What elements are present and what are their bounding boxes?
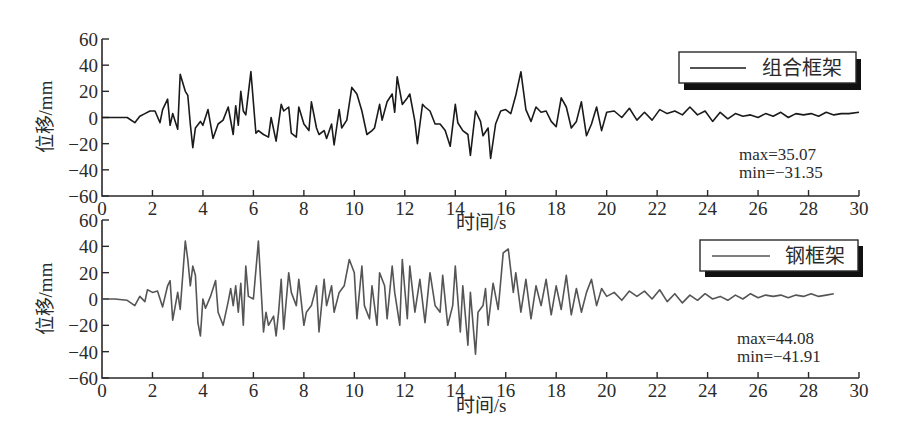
x-tick-label: 18	[547, 380, 566, 401]
x-tick-label: 6	[249, 198, 259, 219]
y-tick-label: 60	[79, 210, 98, 231]
legend: 组合框架	[679, 52, 861, 90]
y-tick-label: 20	[79, 263, 98, 284]
x-tick-label: 4	[198, 198, 208, 219]
min-annotation: min=−41.91	[737, 347, 821, 366]
x-axis-label: 时间/s	[456, 212, 507, 233]
x-tick-label: 0	[97, 380, 107, 401]
x-tick-label: 2	[148, 198, 158, 219]
legend-label: 钢框架	[785, 245, 845, 267]
legend-label: 组合框架	[762, 57, 842, 79]
y-axis-title: 位移/mm	[35, 80, 56, 153]
y-axis-label: 位移/mm	[35, 262, 56, 335]
x-tick-label: 20	[597, 380, 616, 401]
y-tick-label: −40	[68, 342, 98, 363]
x-axis-label: 时间/s	[456, 395, 507, 416]
displacement-time-history-charts: 位移/mm −60−40−200204060 02468101214161820…	[0, 0, 897, 444]
x-tick-label: 18	[547, 198, 566, 219]
legend: 钢框架	[700, 240, 863, 277]
x-tick-label: 12	[395, 380, 414, 401]
y-tick-label: −40	[68, 160, 98, 181]
y-axis-label: 位移/mm	[35, 80, 56, 153]
x-tick-label: 22	[648, 380, 667, 401]
x-tick-label: 24	[698, 198, 718, 219]
x-tick-label: 20	[597, 198, 616, 219]
figure: 位移/mm −60−40−200204060 02468101214161820…	[0, 0, 897, 444]
min-annotation: min=−31.35	[739, 163, 823, 182]
x-tick-label: 4	[198, 380, 208, 401]
y-tick-label: −60	[68, 368, 98, 389]
max-annotation: max=44.08	[737, 329, 814, 348]
y-tick-label: −20	[68, 134, 98, 155]
y-tick-label: −60	[68, 186, 98, 207]
x-tick-label: 28	[799, 380, 818, 401]
y-tick-label: 40	[79, 55, 98, 76]
x-tick-label: 24	[698, 380, 718, 401]
x-tick-label: 26	[749, 380, 768, 401]
x-tick-label: 22	[648, 198, 667, 219]
y-tick-label: −20	[68, 315, 98, 336]
x-tick-label: 28	[799, 198, 818, 219]
x-tick-label: 10	[345, 380, 364, 401]
chart-panel-composite-frame: 位移/mm −60−40−200204060 02468101214161820…	[35, 29, 869, 233]
y-tick-label: 60	[79, 29, 98, 50]
y-tick-label: 0	[89, 289, 99, 310]
x-tick-label: 2	[148, 380, 158, 401]
x-tick-label: 0	[97, 198, 107, 219]
y-axis-title: 位移/mm	[35, 262, 56, 335]
x-tick-label: 8	[299, 198, 309, 219]
y-tick-label: 20	[79, 81, 98, 102]
y-tick-label: 40	[79, 236, 98, 257]
x-tick-label: 10	[345, 198, 364, 219]
y-tick-label: 0	[89, 108, 99, 129]
x-tick-label: 12	[395, 198, 414, 219]
max-annotation: max=35.07	[739, 145, 817, 164]
x-tick-label: 6	[249, 380, 259, 401]
x-tick-label: 26	[749, 198, 768, 219]
chart-panel-steel-frame: 位移/mm −60−40−200204060 02468101214161820…	[35, 210, 869, 416]
x-tick-label: 8	[299, 380, 309, 401]
x-tick-label: 30	[850, 380, 869, 401]
x-tick-label: 30	[850, 198, 869, 219]
